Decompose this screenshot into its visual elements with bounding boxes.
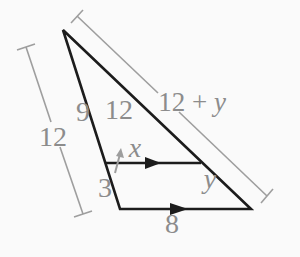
label-left-side-upper: 9 <box>76 96 90 127</box>
label-hypotenuse-total-variable: y <box>211 87 226 117</box>
midsegment-left-up-arrow-icon <box>115 148 124 173</box>
left-dimension-segment-lower <box>60 147 83 214</box>
label-left-side-lower: 3 <box>98 172 112 203</box>
label-base: 8 <box>165 208 179 239</box>
label-hypotenuse-total: 12 + y <box>158 87 226 117</box>
triangle-figure: 12 9 3 12 12 + y x y 8 <box>0 0 300 257</box>
geometry-diagram: 12 9 3 12 12 + y x y 8 <box>0 0 300 257</box>
left-dimension-segment-upper <box>26 47 51 122</box>
label-left-side-total: 12 <box>39 121 67 152</box>
label-hypotenuse-upper: 12 <box>105 94 133 125</box>
midsegment-parallel-arrow-icon <box>145 157 161 169</box>
label-hypotenuse-total-number: 12 + <box>158 87 214 117</box>
label-midsegment-x: x <box>128 132 142 163</box>
label-hypotenuse-lower-y: y <box>201 163 217 194</box>
triangle-outline <box>63 30 251 209</box>
